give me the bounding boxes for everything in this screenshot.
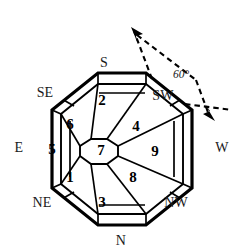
sector-label-4: 4 <box>132 119 140 134</box>
sector-label-8: 8 <box>129 170 137 185</box>
compass-label-northwest: NW <box>164 196 188 210</box>
sector-label-3: 3 <box>98 195 106 210</box>
compass-label-north: N <box>116 234 126 248</box>
compass-diagram-svg <box>0 0 240 252</box>
sector-label-2: 2 <box>98 93 106 108</box>
angle-arrowhead-upper <box>131 27 143 44</box>
sector-label-5: 5 <box>48 142 56 157</box>
sector-label-9: 9 <box>151 144 159 159</box>
sector-label-1: 1 <box>66 170 74 185</box>
compass-label-northeast: NE <box>32 196 51 210</box>
compass-label-southwest: SW <box>152 89 173 103</box>
sector-label-6: 6 <box>66 117 74 132</box>
sector-label-7: 7 <box>97 143 105 158</box>
compass-label-east: E <box>15 141 24 155</box>
compass-label-west: W <box>215 141 228 155</box>
octagon-compass-figure: S N E W SE SW NE NW 2 6 4 5 7 9 1 8 3 60… <box>0 0 240 252</box>
angle-arc-connector-b <box>196 80 209 115</box>
angle-label-60-degrees: 60° <box>173 69 189 81</box>
compass-label-south: S <box>100 56 108 70</box>
compass-label-southeast: SE <box>37 86 54 100</box>
